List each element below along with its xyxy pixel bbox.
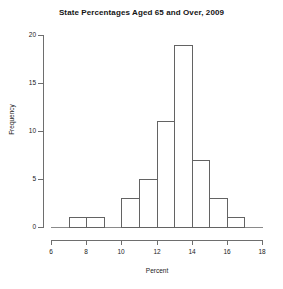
y-axis-tick <box>38 179 43 180</box>
x-axis-tick <box>227 240 228 245</box>
x-axis-tick <box>192 240 193 245</box>
x-axis-tick <box>157 240 158 245</box>
y-axis-tick <box>38 227 43 228</box>
plot-area: 05101520 681012141618 Frequency Percent <box>0 0 283 289</box>
x-axis-tick-label: 8 <box>74 249 98 256</box>
histogram-bar <box>157 121 175 228</box>
histogram-bar <box>192 160 210 228</box>
histogram-bar <box>121 198 140 228</box>
x-axis-tick-label: 6 <box>39 249 63 256</box>
x-axis-tick <box>86 240 87 245</box>
histogram-figure: State Percentages Aged 65 and Over, 2009… <box>0 0 283 289</box>
y-axis-tick-label: 0 <box>6 224 36 231</box>
histogram-bar <box>174 45 193 228</box>
histogram-bar <box>139 179 158 228</box>
y-axis-tick <box>38 83 43 84</box>
y-axis-label: Frequency <box>8 90 15 150</box>
y-axis-line <box>43 35 44 228</box>
x-axis-tick-label: 12 <box>145 249 169 256</box>
x-axis-tick-label: 18 <box>250 249 274 256</box>
histogram-bar <box>209 198 228 228</box>
x-axis-tick <box>121 240 122 245</box>
x-axis-tick <box>262 240 263 245</box>
y-axis-tick <box>38 131 43 132</box>
x-axis-tick-label: 10 <box>109 249 133 256</box>
y-axis-tick-label: 15 <box>6 80 36 87</box>
histogram-bar <box>86 217 105 228</box>
x-axis-tick-label: 16 <box>215 249 239 256</box>
x-axis-tick <box>51 240 52 245</box>
y-axis-tick-label: 5 <box>6 176 36 183</box>
y-axis-tick <box>38 35 43 36</box>
histogram-bar <box>227 217 245 228</box>
x-axis-tick-label: 14 <box>180 249 204 256</box>
histogram-bar <box>69 217 87 228</box>
y-axis-tick-label: 20 <box>6 32 36 39</box>
x-axis-label: Percent <box>51 267 263 274</box>
